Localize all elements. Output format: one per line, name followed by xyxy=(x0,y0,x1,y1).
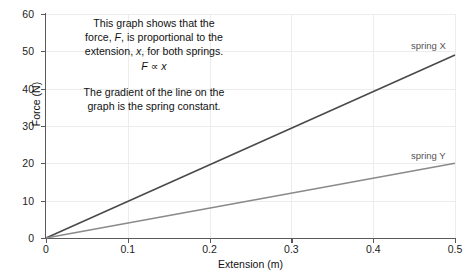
series-label-spring-y: spring Y xyxy=(411,150,446,161)
annotation-paragraph-2: The gradient of the line on the graph is… xyxy=(54,85,254,113)
annotation-line-6: graph is the spring constant. xyxy=(87,100,220,112)
formula-operator-proportional: ∝ xyxy=(151,60,159,72)
annotation-text-block: This graph shows that the force, F, is p… xyxy=(54,16,254,113)
annotation-line-2-prefix: force, xyxy=(85,31,114,43)
line-chart-figure: 60 50 40 30 20 10 0 0 0.1 0.2 0.3 0.4 0.… xyxy=(0,0,469,276)
formula-symbol-f: F xyxy=(141,60,147,72)
series-label-spring-x: spring X xyxy=(411,40,446,51)
annotation-paragraph-1: This graph shows that the force, F, is p… xyxy=(54,16,254,59)
annotation-line-3-suffix: , for both springs. xyxy=(141,45,223,57)
annotation-line-2-suffix: , is proportional to the xyxy=(121,31,223,43)
annotation-line-1: This graph shows that the xyxy=(93,17,214,29)
annotation-line-3-prefix: extension, xyxy=(85,45,136,57)
annotation-line-5: The gradient of the line on the xyxy=(84,86,225,98)
series-line-spring-y xyxy=(46,163,455,238)
annotation-formula: F ∝ x xyxy=(54,59,254,73)
formula-symbol-x: x xyxy=(161,60,166,72)
